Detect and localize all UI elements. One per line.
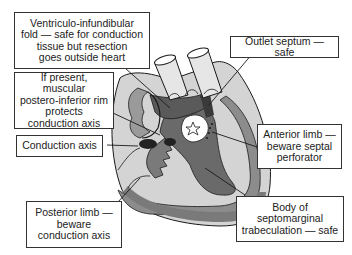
label-outlet-septum: Outlet septum — safe	[230, 36, 339, 58]
label-septomarginal-body: Body of septomarginal trabeculation — sa…	[236, 196, 344, 242]
label-text: If present, muscular postero-inferior ri…	[18, 72, 110, 130]
label-ventriculo-infundibular-fold: Ventriculo-infundibular fold — safe for …	[14, 12, 150, 69]
label-text: Anterior limb — beware septal perforator	[263, 129, 335, 164]
label-text: Posterior limb — beware conduction axis	[35, 207, 113, 242]
label-text: Body of septomarginal trabeculation — sa…	[242, 202, 338, 237]
label-conduction-axis: Conduction axis	[16, 135, 103, 157]
conduction-axis-shape	[139, 139, 157, 149]
label-postero-inferior-rim: If present, muscular postero-inferior ri…	[14, 72, 114, 129]
label-text: Conduction axis	[22, 140, 97, 152]
label-posterior-limb: Posterior limb — beware conduction axis	[26, 201, 122, 248]
label-text: Ventriculo-infundibular fold — safe for …	[21, 18, 143, 64]
conduction-axis-branch	[164, 138, 176, 146]
label-text: Outlet septum — safe	[234, 36, 335, 59]
label-anterior-limb: Anterior limb — beware septal perforator	[257, 124, 342, 169]
